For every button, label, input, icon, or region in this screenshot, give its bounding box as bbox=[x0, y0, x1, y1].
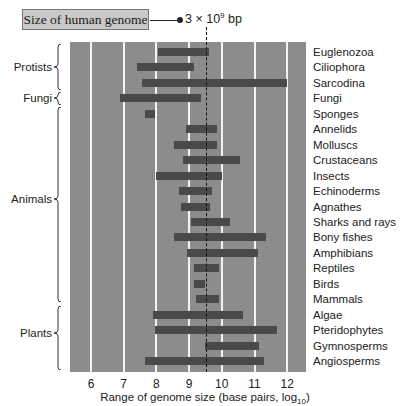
range-bar-annelids bbox=[186, 125, 217, 133]
row-label: Sponges bbox=[313, 107, 358, 121]
row-label: Euglenozoa bbox=[313, 45, 374, 59]
group-label-animals: Animals bbox=[11, 192, 52, 206]
row-label: Crustaceans bbox=[313, 153, 378, 167]
x-tick-label: 11 bbox=[245, 377, 265, 391]
gridline-8 bbox=[155, 42, 157, 372]
range-bar-euglenozoa bbox=[158, 48, 209, 56]
row-label: Mammals bbox=[313, 292, 363, 306]
human-genome-reference-line bbox=[206, 27, 207, 372]
range-bar-algae bbox=[153, 311, 243, 319]
x-tick-label: 8 bbox=[146, 377, 166, 391]
row-label: Reptiles bbox=[313, 261, 355, 275]
range-bar-amphibians bbox=[187, 249, 257, 257]
brace-icon bbox=[52, 44, 66, 90]
group-label-plants: Plants bbox=[20, 326, 52, 340]
group-label-protists: Protists bbox=[14, 60, 52, 74]
range-bar-sharks-and-rays bbox=[191, 218, 230, 226]
range-bar-mammals bbox=[196, 295, 219, 303]
row-label: Insects bbox=[313, 169, 349, 183]
brace-icon bbox=[52, 92, 66, 105]
row-label: Amphibians bbox=[313, 246, 373, 260]
row-label: Algae bbox=[313, 308, 342, 322]
range-bar-ciliophora bbox=[137, 63, 194, 71]
row-label: Annelids bbox=[313, 122, 357, 136]
row-label: Sarcodina bbox=[313, 76, 365, 90]
row-label: Molluscs bbox=[313, 138, 358, 152]
pointer-dot-icon bbox=[177, 17, 183, 23]
human-genome-label-box: Size of human genome bbox=[22, 9, 149, 30]
range-bar-molluscs bbox=[174, 141, 217, 149]
plot-area bbox=[70, 42, 306, 372]
row-label: Echinoderms bbox=[313, 184, 380, 198]
human-genome-size-value: 3 × 109 bp bbox=[185, 11, 242, 26]
range-bar-crustaceans bbox=[183, 156, 240, 164]
row-label: Pteridophytes bbox=[313, 323, 383, 337]
x-tick-label: 7 bbox=[114, 377, 134, 391]
range-bar-gymnosperms bbox=[205, 342, 259, 350]
group-label-fungi: Fungi bbox=[23, 91, 52, 105]
row-label: Fungi bbox=[313, 91, 342, 105]
range-bar-pteridophytes bbox=[155, 326, 278, 334]
x-tick-label: 6 bbox=[81, 377, 101, 391]
brace-icon bbox=[52, 306, 66, 370]
gridline-10 bbox=[221, 42, 223, 372]
row-label: Agnathes bbox=[313, 200, 362, 214]
range-bar-bony-fishes bbox=[174, 233, 266, 241]
x-tick-label: 9 bbox=[179, 377, 199, 391]
brace-icon bbox=[52, 107, 66, 302]
row-label: Bony fishes bbox=[313, 230, 372, 244]
row-label: Sharks and rays bbox=[313, 215, 396, 229]
range-bar-sarcodina bbox=[142, 79, 288, 87]
x-tick-label: 12 bbox=[277, 377, 297, 391]
row-label: Birds bbox=[313, 277, 339, 291]
gridline-11 bbox=[254, 42, 256, 372]
range-bar-insects bbox=[156, 172, 221, 180]
range-bar-echinoderms bbox=[179, 187, 212, 195]
row-label: Ciliophora bbox=[313, 60, 365, 74]
range-bar-sponges bbox=[145, 110, 155, 118]
range-bar-angiosperms bbox=[145, 357, 264, 365]
range-bar-fungi bbox=[120, 94, 200, 102]
row-label: Angiosperms bbox=[313, 354, 380, 368]
range-bar-birds bbox=[194, 280, 205, 288]
gridline-7 bbox=[123, 42, 125, 372]
row-label: Gymnosperms bbox=[313, 339, 388, 353]
gridline-6 bbox=[90, 42, 92, 372]
x-tick-label: 10 bbox=[212, 377, 232, 391]
gridline-12 bbox=[286, 42, 288, 372]
x-axis-label: Range of genome size (base pairs, log10) bbox=[0, 391, 400, 406]
pointer-line bbox=[150, 20, 180, 21]
